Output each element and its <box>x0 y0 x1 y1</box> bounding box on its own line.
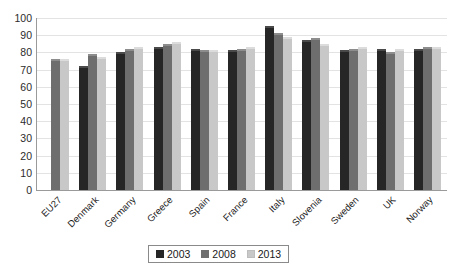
bar <box>423 49 432 190</box>
y-axis-tick-label: 0 <box>2 185 32 195</box>
bar <box>97 59 106 190</box>
bar-top-highlight <box>125 49 134 51</box>
bar-group <box>223 18 260 190</box>
bar-top-highlight <box>432 47 441 49</box>
x-axis-tick-label: France <box>220 194 249 223</box>
bar-top-highlight <box>228 50 237 52</box>
bar <box>172 44 181 190</box>
bar-group <box>149 18 186 190</box>
bar <box>200 52 209 190</box>
bar-top-highlight <box>154 47 163 49</box>
legend-label: 2013 <box>258 248 281 260</box>
x-axis-tick-label: UK <box>381 194 398 211</box>
x-axis-tick-label: Norway <box>404 194 435 225</box>
bar-top-highlight <box>200 50 209 52</box>
y-axis-tick-label: 30 <box>2 133 32 143</box>
x-axis-label-slot: Denmark <box>74 191 111 239</box>
bar <box>358 49 367 190</box>
bar <box>340 52 349 190</box>
bar <box>237 51 246 190</box>
bar <box>283 39 292 190</box>
bar-top-highlight <box>134 47 143 49</box>
x-axis-label-slot: Spain <box>186 191 223 239</box>
bar-groups <box>37 18 446 190</box>
y-axis-tick-label: 60 <box>2 82 32 92</box>
bar <box>386 54 395 190</box>
bar-top-highlight <box>191 49 200 51</box>
bar-top-highlight <box>358 47 367 49</box>
legend-swatch-icon <box>156 250 164 258</box>
bar-group <box>372 18 409 190</box>
bar-group <box>111 18 148 190</box>
bar <box>79 68 88 190</box>
bar <box>154 49 163 190</box>
bar-top-highlight <box>274 33 283 35</box>
bar <box>349 51 358 190</box>
y-axis-tick-label: 10 <box>2 168 32 178</box>
bar <box>311 40 320 190</box>
legend-label: 2008 <box>212 248 235 260</box>
bar-group <box>37 18 74 190</box>
bar <box>116 54 125 190</box>
bar-top-highlight <box>349 49 358 51</box>
y-axis-tick-label: 100 <box>2 13 32 23</box>
bar <box>191 51 200 190</box>
bar-top-highlight <box>395 49 404 51</box>
bar-top-highlight <box>265 26 274 28</box>
x-axis-tick-label: EU27 <box>39 194 64 219</box>
legend-item[interactable]: 2008 <box>201 248 235 260</box>
bar <box>134 49 143 190</box>
bar-top-highlight <box>423 47 432 49</box>
bar <box>302 42 311 190</box>
chart-legend: 200320082013 <box>148 245 289 263</box>
bar <box>320 46 329 190</box>
bar-group <box>74 18 111 190</box>
x-axis-label-slot: Greece <box>149 191 186 239</box>
y-axis: 1009080706050403020100 <box>0 18 32 190</box>
legend-swatch-icon <box>201 250 209 258</box>
bar-top-highlight <box>340 50 349 52</box>
x-axis-label-slot: EU27 <box>37 191 74 239</box>
x-axis-tick-label: Greece <box>145 194 175 224</box>
bar-group <box>335 18 372 190</box>
bar-top-highlight <box>209 50 218 52</box>
x-axis-label-slot: Slovenia <box>297 191 334 239</box>
y-axis-tick-label: 20 <box>2 151 32 161</box>
bar-group <box>297 18 334 190</box>
legend-item[interactable]: 2003 <box>156 248 190 260</box>
bar-chart: 1009080706050403020100 EU27DenmarkGerman… <box>0 0 452 269</box>
bar-top-highlight <box>283 37 292 39</box>
bar-top-highlight <box>237 49 246 51</box>
bar <box>246 49 255 190</box>
bar-group <box>409 18 446 190</box>
bar-top-highlight <box>320 44 329 46</box>
bar-top-highlight <box>246 47 255 49</box>
bar <box>51 61 60 190</box>
bar-top-highlight <box>97 57 106 59</box>
bar <box>274 35 283 190</box>
legend-item[interactable]: 2013 <box>247 248 281 260</box>
bar <box>414 51 423 190</box>
bar <box>432 49 441 190</box>
bar-top-highlight <box>311 38 320 40</box>
y-axis-tick-label: 50 <box>2 99 32 109</box>
bar-top-highlight <box>88 54 97 56</box>
bar <box>395 51 404 190</box>
legend-label: 2003 <box>167 248 190 260</box>
y-axis-tick-label: 40 <box>2 116 32 126</box>
bar-top-highlight <box>79 66 88 68</box>
bar <box>60 61 69 190</box>
x-axis-labels: EU27DenmarkGermanyGreeceSpainFranceItaly… <box>37 191 446 239</box>
bar-top-highlight <box>60 59 69 61</box>
bar <box>88 56 97 190</box>
bar <box>163 46 172 190</box>
bar-group <box>186 18 223 190</box>
bar <box>265 28 274 190</box>
x-axis-tick-label: Italy <box>266 194 286 214</box>
bar-top-highlight <box>116 52 125 54</box>
bar <box>125 51 134 190</box>
bar <box>228 52 237 190</box>
x-axis-label-slot: France <box>223 191 260 239</box>
bar-group <box>260 18 297 190</box>
bar <box>209 52 218 190</box>
